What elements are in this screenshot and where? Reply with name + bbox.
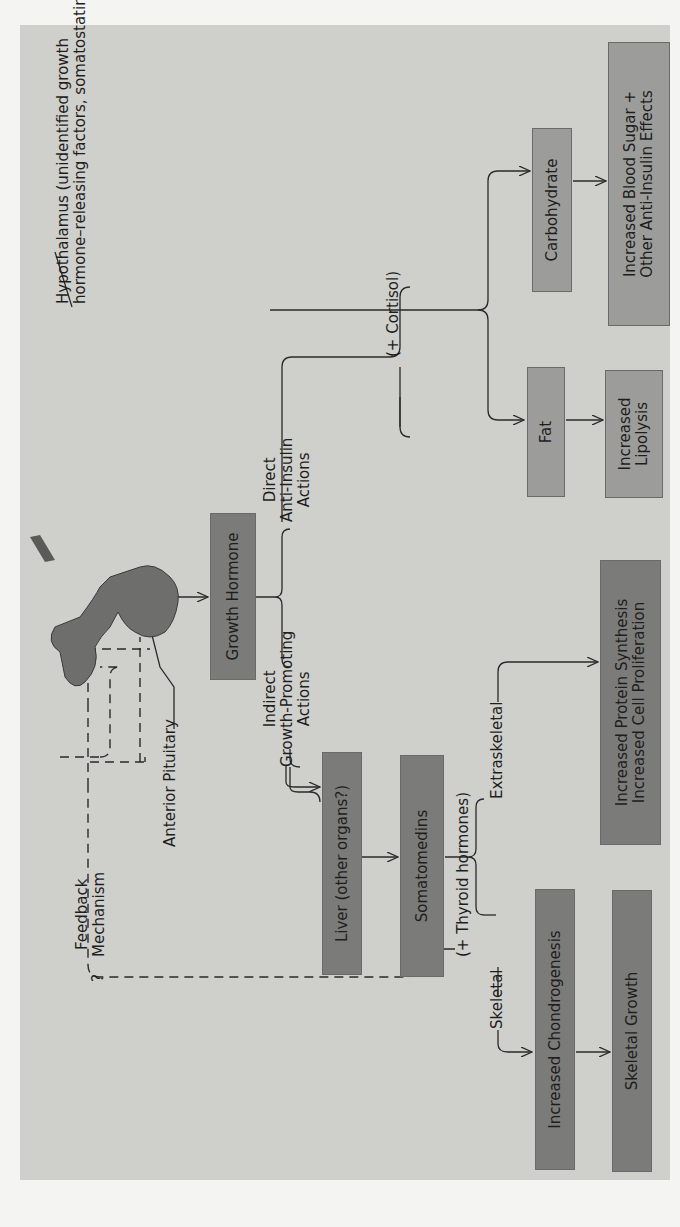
skeletal-growth-box: Skeletal Growth <box>612 890 652 1172</box>
connector-lines <box>0 0 680 1227</box>
cortisol-label: (+ Cortisol) <box>385 271 402 357</box>
hypothalamus-label: Hypothalamus (unidentified growth hormon… <box>55 0 89 304</box>
arrow-to-carbohydrate <box>478 171 530 310</box>
direct-actions-label: Direct Anti-Insulin Actions <box>262 438 313 522</box>
direct-label-line1: Direct <box>262 438 279 522</box>
lipolysis-line2: Lipolysis <box>634 402 651 466</box>
direct-label-line3: Actions <box>296 438 313 522</box>
feedback-question-mark: ? <box>90 974 107 982</box>
feedback-label-line2: Mechanism <box>91 872 108 957</box>
protein-synthesis-line2: Increased Cell Proliferation <box>631 602 648 803</box>
direct-label-line2: Anti-Insulin <box>279 438 296 522</box>
hypothalamus-label-line1: Hypothalamus (unidentified growth <box>55 0 72 304</box>
feedback-label-line1: Feedback <box>74 872 91 957</box>
growth-hormone-box: Growth Hormone <box>210 513 256 680</box>
blood-sugar-box: Increased Blood Sugar + Other Anti-Insul… <box>608 42 670 326</box>
pituitary-gland-illustration <box>30 535 178 686</box>
indirect-label-line2: Growth-Promoting <box>279 631 296 767</box>
somatomedins-box: Somatomedins <box>400 755 444 977</box>
skeletal-label: Skeletal <box>489 969 506 1029</box>
hypothalamus-label-line2: hormone–releasing factors, somatostatin) <box>72 0 89 304</box>
blood-sugar-line1: Increased Blood Sugar + <box>622 91 639 277</box>
protein-synthesis-line1: Increased Protein Synthesis <box>614 599 631 806</box>
indirect-label-line1: Indirect <box>262 631 279 767</box>
liver-box: Liver (other organs?) <box>322 752 362 975</box>
thyroid-label: (+ Thyroid hormones) <box>455 792 472 957</box>
blood-sugar-line2: Other Anti-Insulin Effects <box>639 90 656 277</box>
fat-box: Fat <box>527 367 565 497</box>
carbohydrate-box: Carbohydrate <box>532 128 572 292</box>
indirect-label-line3: Actions <box>296 631 313 767</box>
anterior-pituitary-label: Anterior Pituitary <box>162 719 179 847</box>
indirect-actions-label: Indirect Growth-Promoting Actions <box>262 631 313 767</box>
feedback-label: Feedback Mechanism <box>74 872 108 957</box>
diagram-stage: Hypothalamus (unidentified growth hormon… <box>0 0 680 1227</box>
protein-synthesis-box: Increased Protein Synthesis Increased Ce… <box>600 560 661 845</box>
chondrogenesis-box: Increased Chondrogenesis <box>535 889 575 1170</box>
arrow-to-fat <box>478 310 524 420</box>
extraskeletal-label: Extraskeletal <box>489 702 506 799</box>
lipolysis-line1: Increased <box>617 398 634 471</box>
increased-lipolysis-box: Increased Lipolysis <box>605 370 663 498</box>
